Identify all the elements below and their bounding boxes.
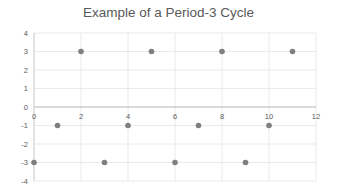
data-point xyxy=(172,160,178,166)
x-tick-label: 10 xyxy=(265,112,273,121)
y-tick-label: -1 xyxy=(21,121,28,130)
data-point xyxy=(196,123,202,129)
y-tick-label: -3 xyxy=(21,158,28,167)
data-point xyxy=(125,123,131,129)
data-point xyxy=(290,49,296,55)
x-tick-label: 0 xyxy=(32,112,36,121)
data-point xyxy=(102,160,108,166)
y-tick-label: 1 xyxy=(24,84,28,93)
data-point xyxy=(219,49,225,55)
data-point xyxy=(243,160,249,166)
data-point xyxy=(266,123,272,129)
y-tick-label: 4 xyxy=(24,29,28,38)
y-tick-label: 2 xyxy=(24,66,28,75)
x-axis-tick-labels: 024681012 xyxy=(32,112,320,121)
y-tick-label: 3 xyxy=(24,47,28,56)
y-tick-label: -4 xyxy=(21,177,28,186)
x-tick-label: 12 xyxy=(312,112,320,121)
y-tick-label: -2 xyxy=(21,140,28,149)
y-axis-tick-labels: 43210-1-2-3-4 xyxy=(21,29,28,186)
data-point xyxy=(78,49,84,55)
data-point xyxy=(55,123,61,129)
y-tick-label: 0 xyxy=(24,103,28,112)
x-tick-label: 8 xyxy=(220,112,224,121)
x-tick-label: 4 xyxy=(126,112,130,121)
x-tick-label: 2 xyxy=(79,112,83,121)
data-point xyxy=(31,160,37,166)
data-point xyxy=(149,49,155,55)
scatter-plot: 43210-1-2-3-4 024681012 xyxy=(0,0,337,196)
x-tick-label: 6 xyxy=(173,112,177,121)
